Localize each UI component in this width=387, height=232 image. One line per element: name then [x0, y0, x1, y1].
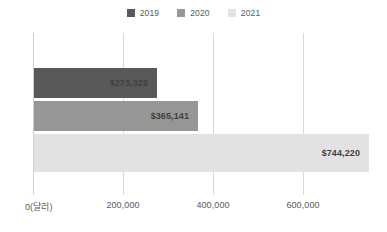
- legend-label-2020: 2020: [190, 9, 210, 18]
- legend-item-2021[interactable]: 2021: [228, 9, 261, 18]
- bar-chart: 2019 2020 2021 $273,328 $365,141 $744,22…: [0, 0, 387, 232]
- bar-value-label-2021: $744,220: [322, 148, 369, 158]
- legend-item-2020[interactable]: 2020: [177, 9, 210, 18]
- legend-swatch-2019: [127, 9, 135, 17]
- legend-label-2021: 2021: [241, 9, 261, 18]
- legend-swatch-2021: [228, 9, 236, 17]
- legend-item-2019[interactable]: 2019: [127, 9, 160, 18]
- bar-2019[interactable]: $273,328: [34, 68, 157, 98]
- bar-value-label-2020: $365,141: [151, 111, 198, 121]
- bar-2020[interactable]: $365,141: [34, 101, 198, 131]
- bar-value-label-2019: $273,328: [110, 78, 157, 88]
- plot-area: $273,328 $365,141 $744,220: [33, 33, 378, 195]
- chart-legend: 2019 2020 2021: [0, 9, 387, 18]
- x-tick-label-200000: 200,000: [106, 200, 139, 210]
- bar-2021[interactable]: $744,220: [34, 134, 369, 172]
- legend-label-2019: 2019: [140, 9, 160, 18]
- x-tick-label-600000: 600,000: [286, 200, 319, 210]
- x-tick-label-400000: 400,000: [196, 200, 229, 210]
- legend-swatch-2020: [177, 9, 185, 17]
- x-tick-label-0: 0(달러): [25, 200, 53, 213]
